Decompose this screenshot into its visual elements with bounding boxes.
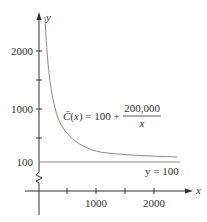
curve-label-denominator: x — [139, 117, 145, 129]
y-tick-label-2000: 2000 — [11, 45, 34, 57]
y-axis-arrow-icon — [37, 12, 42, 20]
cost-chart: 2000 1000 100 1000 2000 y x C̄(x) = 100 … — [0, 0, 207, 222]
y-axis-break — [36, 172, 42, 183]
cost-curve — [45, 17, 177, 157]
curve-label: C̄(x) = 100 + 200,000 x — [63, 102, 161, 129]
y-tick-label-100: 100 — [17, 156, 34, 168]
x-tick-label-2000: 2000 — [143, 197, 166, 209]
y-tick-label-1000: 1000 — [11, 103, 34, 115]
x-tick-label-1000: 1000 — [85, 197, 108, 209]
curve-label-lhs: C̄(x) = 100 + — [63, 110, 120, 123]
curve-label-numerator: 200,000 — [124, 102, 160, 114]
y-axis-label: y — [45, 11, 51, 23]
x-axis-label: x — [195, 184, 201, 196]
asymptote-label: y = 100 — [145, 165, 179, 177]
x-axis-arrow-icon — [185, 189, 193, 194]
